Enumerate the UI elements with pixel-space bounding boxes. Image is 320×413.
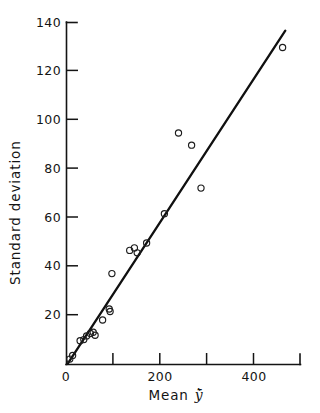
y-ticklabel-140: 140 [36,15,61,30]
x-axis-title: Meanỳ̄ [148,387,203,403]
x-tick-group [113,353,254,365]
data-point [109,271,115,277]
y-ticklabel-120: 120 [36,63,61,78]
y-tick-group [67,70,79,314]
data-point [280,44,286,50]
y-axis-title: Standard deviation [7,140,23,285]
x-ticklabel-group: 0 200 400 [62,369,267,384]
x-ticklabel-400: 400 [241,369,266,384]
y-ticklabel-60: 60 [44,210,61,225]
y-ticklabel-20: 20 [44,307,61,322]
figure-container: 140 120 100 80 60 40 20 0 200 400 [0,0,320,413]
x-ticklabel-200: 200 [147,369,172,384]
y-ticklabel-40: 40 [44,258,61,273]
y-bar-symbol: ỳ̄ [194,387,204,403]
y-ticklabel-group: 140 120 100 80 60 40 20 [36,15,61,322]
fitted-regression-line [68,31,285,364]
data-point [198,185,204,191]
x-ticklabel-0: 0 [62,369,70,384]
x-axis-title-text: Mean [148,387,188,403]
data-point [100,317,106,323]
y-ticklabel-80: 80 [44,161,61,176]
data-point [175,130,181,136]
data-point [189,142,195,148]
scatter-plot: 140 120 100 80 60 40 20 0 200 400 [0,0,320,413]
y-ticklabel-100: 100 [36,112,61,127]
